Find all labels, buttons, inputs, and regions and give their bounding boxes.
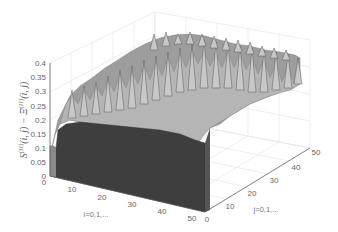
svg-text:0: 0 xyxy=(205,215,210,224)
svg-text:10: 10 xyxy=(226,202,235,211)
svg-text:0.15: 0.15 xyxy=(30,130,46,139)
svg-text:30: 30 xyxy=(128,200,137,209)
svg-text:50: 50 xyxy=(188,214,197,223)
surface-plot: 0 0.05 0.1 0.15 0.2 0.25 0.3 0.35 0.4 0 … xyxy=(0,0,338,232)
y-axis-label: j=0,1,... xyxy=(253,205,279,214)
svg-text:0.25: 0.25 xyxy=(30,102,46,111)
svg-text:0: 0 xyxy=(42,178,47,187)
svg-text:10: 10 xyxy=(68,185,77,194)
svg-text:20: 20 xyxy=(248,189,257,198)
x-axis-label: i=0,1,... xyxy=(84,210,109,219)
svg-text:50: 50 xyxy=(312,148,321,157)
svg-text:30: 30 xyxy=(270,176,279,185)
z-axis-label: S(11)(i, j) − Ξ(11)(i, j) xyxy=(18,81,30,158)
svg-text:0.3: 0.3 xyxy=(35,87,47,96)
svg-text:0.1: 0.1 xyxy=(35,144,47,153)
svg-text:0.35: 0.35 xyxy=(30,73,46,82)
svg-text:20: 20 xyxy=(98,193,107,202)
svg-text:S(11)(i, j) − Ξ(11: S(11)(i, j) − Ξ(11)(i, j) xyxy=(18,81,30,158)
svg-text:0.05: 0.05 xyxy=(30,158,46,167)
svg-text:0.4: 0.4 xyxy=(35,59,47,68)
z-axis-ticks: 0 0.05 0.1 0.15 0.2 0.25 0.3 0.35 0.4 xyxy=(30,59,46,181)
svg-text:40: 40 xyxy=(292,163,301,172)
svg-text:0.2: 0.2 xyxy=(35,116,47,125)
svg-text:40: 40 xyxy=(158,207,167,216)
